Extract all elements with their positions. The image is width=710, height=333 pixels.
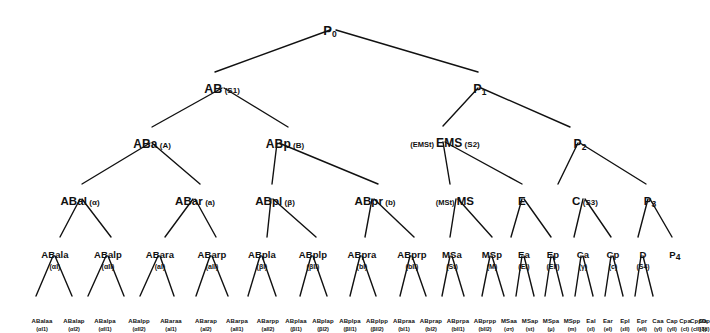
node-alias: (b) bbox=[383, 198, 395, 207]
node-alias: (βI) bbox=[248, 263, 276, 270]
node-alias: (st) bbox=[522, 327, 538, 333]
node-label: Ea bbox=[518, 249, 530, 260]
tree-node-msaa[interactable]: MSaa(στ) bbox=[501, 310, 517, 333]
node-label: Ep bbox=[547, 249, 559, 260]
node-label: ABpraa bbox=[393, 318, 415, 324]
tree-node-epl[interactable]: Epl(εII) bbox=[620, 310, 630, 333]
node-label: ABa bbox=[133, 137, 157, 151]
node-alias: (S1) bbox=[222, 86, 239, 95]
node-subscript: 3 bbox=[651, 199, 656, 209]
tree-node-dp[interactable]: Dp(d) bbox=[702, 310, 710, 333]
tree-node-epr[interactable]: Epr(eII) bbox=[637, 310, 647, 333]
tree-node-cap[interactable]: Cap(γII) bbox=[666, 310, 678, 333]
tree-node-abpra[interactable]: ABpra(bI) bbox=[347, 245, 376, 270]
node-alias: (αII1) bbox=[94, 327, 115, 333]
node-label: ABprap bbox=[420, 318, 442, 324]
tree-node-abpla[interactable]: ABpla(βI) bbox=[248, 245, 276, 270]
tree-node-abplap[interactable]: ABplap(βI2) bbox=[312, 310, 334, 333]
node-label: Cp bbox=[607, 249, 620, 260]
tree-node-abalpp[interactable]: ABalpp(αII2) bbox=[128, 310, 150, 333]
tree-node-abplp[interactable]: ABplp(βII) bbox=[299, 245, 327, 270]
tree-node-abpr[interactable]: ABpr (b) bbox=[355, 192, 396, 208]
node-alias-prefix: (MSt) bbox=[436, 198, 457, 207]
tree-node-abp[interactable]: ABp (B) bbox=[266, 135, 304, 151]
node-label: ABaraa bbox=[160, 318, 182, 324]
tree-node-msa[interactable]: MSa(St) bbox=[442, 245, 462, 270]
tree-node-abala[interactable]: ABala(αI) bbox=[41, 245, 68, 270]
tree-node-ems[interactable]: (EMSt) EMS (S2) bbox=[410, 134, 480, 150]
node-label: EMS bbox=[436, 136, 462, 150]
tree-node-ea[interactable]: Ea(EI) bbox=[518, 245, 530, 270]
node-label: MSpa bbox=[543, 318, 559, 324]
node-alias: (αI1) bbox=[32, 327, 53, 333]
tree-node-abar[interactable]: ABar (a) bbox=[175, 192, 215, 208]
tree-node-abprap[interactable]: ABprap(bI2) bbox=[420, 310, 442, 333]
tree-node-p3[interactable]: P3 bbox=[644, 192, 657, 209]
tree-node-abal[interactable]: ABal (α) bbox=[60, 192, 99, 208]
tree-node-ca[interactable]: Ca(γ) bbox=[577, 245, 589, 270]
tree-node-cp[interactable]: Cp(c) bbox=[607, 245, 620, 270]
node-alias: (βII2) bbox=[366, 327, 388, 333]
node-label: ABpr bbox=[355, 195, 384, 207]
tree-node-p2[interactable]: P2 bbox=[574, 135, 587, 152]
node-alias: (a) bbox=[203, 198, 215, 207]
tree-node-abaraa[interactable]: ABaraa(aI1) bbox=[160, 310, 182, 333]
tree-node-abpraa[interactable]: ABpraa(bI1) bbox=[393, 310, 415, 333]
tree-node-abprp[interactable]: ABprp(bII) bbox=[397, 245, 427, 270]
tree-node-p0[interactable]: P0 bbox=[323, 22, 337, 39]
node-label: MS bbox=[457, 195, 474, 207]
node-label: ABplpp bbox=[366, 318, 388, 324]
tree-node-ep[interactable]: Ep(EII) bbox=[546, 245, 559, 270]
tree-node-abalaa[interactable]: ABalaa(αI1) bbox=[32, 310, 53, 333]
tree-node-ear[interactable]: Ear(eI) bbox=[603, 310, 613, 333]
tree-node-abarap[interactable]: ABarap(aI2) bbox=[195, 310, 217, 333]
tree-node-aba[interactable]: ABa (A) bbox=[133, 135, 171, 151]
node-label: MSaa bbox=[501, 318, 517, 324]
node-alias: (aI) bbox=[146, 263, 175, 270]
node-label: ABpl bbox=[255, 195, 282, 207]
node-label: MSpp bbox=[564, 318, 581, 324]
node-alias: (aII2) bbox=[257, 327, 279, 333]
node-label: ABar bbox=[175, 195, 203, 207]
tree-node-mspa[interactable]: MSpa(μ) bbox=[543, 310, 559, 333]
tree-node-abarpa[interactable]: ABarpa(aII1) bbox=[226, 310, 248, 333]
tree-node-msp[interactable]: MSp(M) bbox=[482, 245, 502, 270]
tree-node-abplpp[interactable]: ABplpp(βII2) bbox=[366, 310, 388, 333]
tree-node-abalp[interactable]: ABalp(αII) bbox=[94, 245, 122, 270]
tree-node-abprpp[interactable]: ABprpp(bII2) bbox=[474, 310, 497, 333]
tree-node-abplpa[interactable]: ABplpa(βII1) bbox=[339, 310, 361, 333]
node-label: ABplaa bbox=[285, 318, 306, 324]
tree-node-caa[interactable]: Caa(γI) bbox=[652, 310, 663, 333]
node-alias: (bI2) bbox=[420, 327, 442, 333]
node-label: ABalpp bbox=[128, 318, 150, 324]
tree-node-d[interactable]: D(S4) bbox=[636, 245, 649, 270]
tree-node-c[interactable]: C (S3) bbox=[572, 192, 598, 208]
tree-node-abarp[interactable]: ABarp(aII) bbox=[197, 245, 226, 270]
tree-node-abalap[interactable]: ABalap(αI2) bbox=[63, 310, 84, 333]
tree-node-p1[interactable]: P1 bbox=[473, 80, 486, 97]
node-alias: (bII1) bbox=[447, 327, 469, 333]
tree-node-msap[interactable]: MSap(st) bbox=[522, 310, 538, 333]
tree-node-ms[interactable]: (MSt) MS bbox=[436, 192, 474, 208]
tree-node-abprpa[interactable]: ABprpa(bII1) bbox=[447, 310, 469, 333]
node-label: AB bbox=[204, 82, 222, 96]
node-alias: (β) bbox=[282, 198, 294, 207]
tree-node-abalpa[interactable]: ABalpa(αII1) bbox=[94, 310, 115, 333]
node-label: ABpla bbox=[248, 249, 276, 260]
tree-node-mspp[interactable]: MSpp(m) bbox=[564, 310, 581, 333]
node-alias: (εI) bbox=[586, 327, 595, 333]
node-label: ABplp bbox=[299, 249, 327, 260]
node-alias: (aI1) bbox=[160, 327, 182, 333]
tree-node-abpl[interactable]: ABpl (β) bbox=[255, 192, 295, 208]
tree-node-ab[interactable]: AB (S1) bbox=[204, 80, 240, 96]
tree-node-abarpp[interactable]: ABarpp(aII2) bbox=[257, 310, 279, 333]
tree-node-abara[interactable]: ABara(aI) bbox=[146, 245, 175, 270]
node-alias: (EII) bbox=[546, 263, 559, 270]
node-alias: (γ) bbox=[577, 263, 589, 270]
node-label: MSap bbox=[522, 318, 538, 324]
tree-node-eal[interactable]: Eal(εI) bbox=[586, 310, 595, 333]
tree-node-p4[interactable]: P4 bbox=[669, 245, 680, 262]
tree-node-e[interactable]: E bbox=[518, 192, 526, 208]
tree-node-abplaa[interactable]: ABplaa(βI1) bbox=[285, 310, 306, 333]
node-alias: (aI2) bbox=[195, 327, 217, 333]
